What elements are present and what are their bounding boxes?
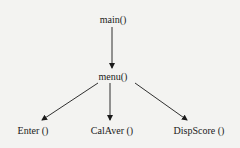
edge-menu-enter (42, 83, 98, 120)
node-main: main() (100, 14, 127, 25)
node-calaver: CalAver () (91, 125, 133, 136)
edge-menu-dispscore (135, 83, 187, 120)
call-tree-diagram: main() menu() Enter () CalAver () DispSc… (0, 0, 240, 148)
node-menu: menu() (99, 71, 128, 82)
node-enter: Enter () (18, 125, 49, 136)
node-dispscore: DispScore () (174, 125, 225, 136)
